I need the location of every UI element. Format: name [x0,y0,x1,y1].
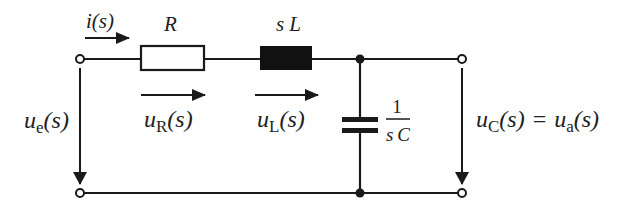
svg-text:1: 1 [392,96,402,117]
input-terminal-bottom [76,189,84,197]
inductor-symbol [260,46,312,70]
input-terminal-top [76,55,84,63]
current-label: i(s) [86,9,114,33]
capacitor-symbol [342,59,378,193]
resistor-label: R [163,12,177,36]
output-voltage-label: uC(s)=ua(s) [476,106,599,136]
svg-text:sC: sC [386,124,410,145]
capacitor-label: 1 sC [386,96,410,145]
input-voltage-label: ue(s) [24,107,69,137]
resistor-symbol [141,46,204,70]
inductor-voltage-label: uL(s) [257,106,305,136]
rlc-circuit-diagram: i(s) R sL ue(s) uR(s) uL(s) 1 sC uC(s)=u… [0,0,638,210]
output-terminal-top [458,55,466,63]
output-terminal-bottom [458,189,466,197]
inductor-label: sL [276,12,301,36]
resistor-voltage-label: uR(s) [144,106,193,136]
